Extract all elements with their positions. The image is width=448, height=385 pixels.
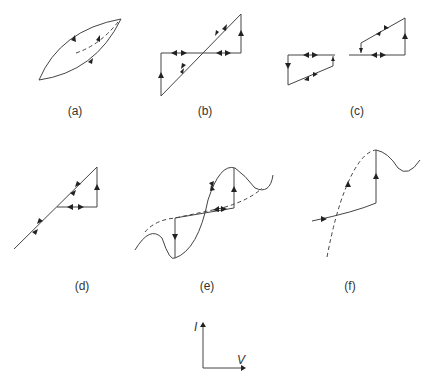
iv-characteristics-diagram: (a) (b) (c) [0,0,448,385]
panel-f [312,150,420,257]
panel-a-label: (a) [68,104,83,118]
panel-b [158,14,244,96]
panel-f-label: (f) [344,279,355,293]
panel-a [39,19,121,80]
panel-c-label: (c) [350,104,364,118]
panel-e [135,167,273,258]
panel-d [14,167,100,249]
panel-b-label: (b) [198,104,213,118]
panel-d-label: (d) [75,279,90,293]
x-axis-label: V [237,353,246,367]
panel-c [285,18,408,85]
panel-e-label: (e) [200,279,215,293]
y-axis-label: I [194,320,198,334]
